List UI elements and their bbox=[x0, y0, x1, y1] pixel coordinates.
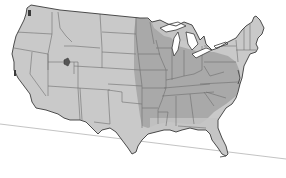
us-map bbox=[0, 0, 286, 178]
florida-keys bbox=[220, 156, 226, 157]
sf-bay bbox=[14, 70, 16, 76]
puget-sound bbox=[28, 10, 31, 16]
